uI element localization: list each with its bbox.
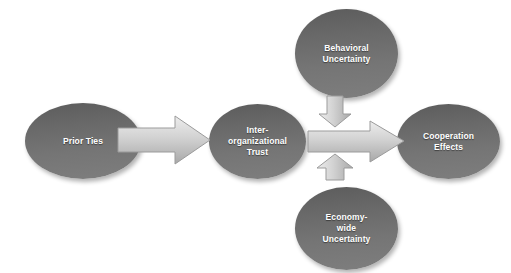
node-economy-wide-uncertainty[interactable]: Economy- wide Uncertainty [295, 187, 398, 270]
node-economy-wide-uncertainty-label: Economy- wide Uncertainty [317, 212, 377, 245]
node-inter-organizational-trust-label: Inter- organizational Trust [222, 125, 293, 158]
node-inter-organizational-trust[interactable]: Inter- organizational Trust [209, 104, 306, 179]
node-prior-ties-label: Prior Ties [57, 136, 109, 147]
arrow-right-icon-trust-to-cooperation [308, 120, 405, 163]
node-behavioral-uncertainty[interactable]: Behavioral Uncertainty [295, 9, 398, 98]
diagram-canvas: Prior Ties Inter- organizational Trust B… [0, 0, 511, 273]
arrow-right-icon-prior-ties-to-trust [118, 115, 210, 165]
node-cooperation-effects[interactable]: Cooperation Effects [397, 104, 500, 179]
node-behavioral-uncertainty-label: Behavioral Uncertainty [317, 43, 377, 65]
node-cooperation-effects-label: Cooperation Effects [417, 131, 480, 153]
